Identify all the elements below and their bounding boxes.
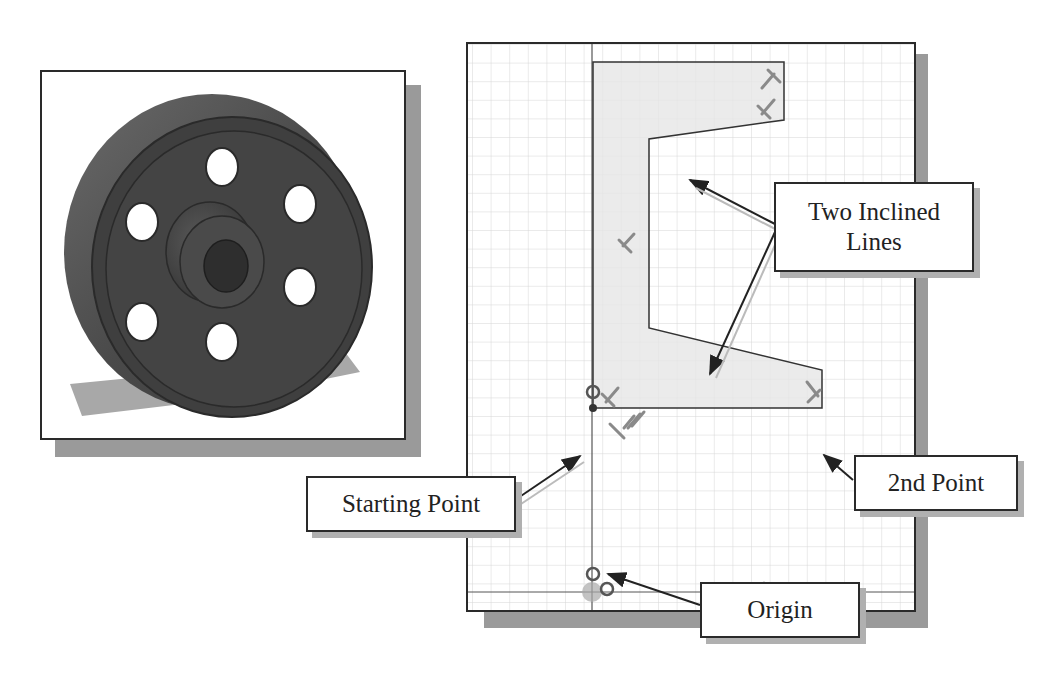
callout-origin: Origin [700,582,860,638]
flywheel-model-image [42,72,404,438]
callout-two-inclined-lines-line1: Two Inclined [808,197,940,227]
callout-two-inclined-lines-line2: Lines [846,227,902,257]
origin-marker [582,582,602,602]
callout-starting-point-label: Starting Point [342,489,480,519]
callout-second-point: 2nd Point [854,455,1018,511]
callout-starting-point: Starting Point [306,476,516,532]
sketch-canvas [468,44,914,610]
model-panel [40,70,406,440]
callout-origin-label: Origin [747,595,812,625]
callout-two-inclined-lines: Two Inclined Lines [774,182,974,272]
sketch-panel [466,42,916,612]
callout-second-point-label: 2nd Point [888,468,985,498]
starting-point-marker [589,404,597,412]
